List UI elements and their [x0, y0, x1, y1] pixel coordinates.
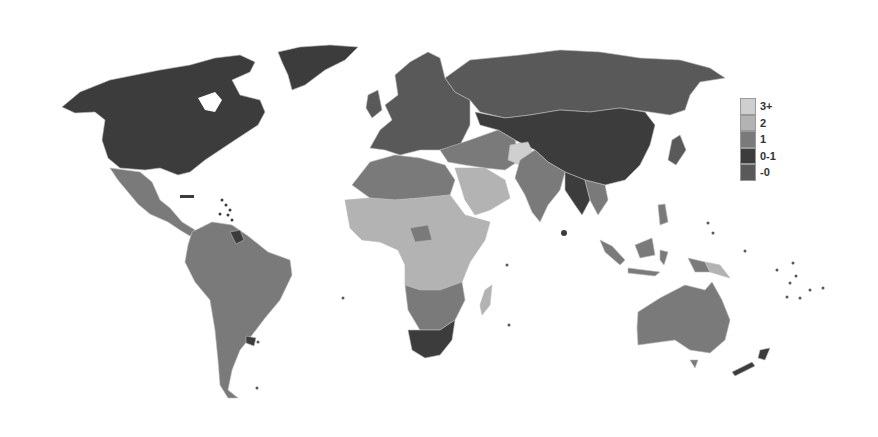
legend: 3+ 2 1 0-1 -0 — [740, 98, 800, 181]
region-new-zealand — [732, 348, 770, 376]
legend-swatch — [740, 98, 756, 115]
region-north-america — [62, 55, 265, 175]
legend-swatch — [740, 115, 756, 132]
legend-label: 1 — [760, 133, 766, 145]
legend-item: 3+ — [740, 98, 800, 115]
region-sri-lanka — [561, 230, 567, 236]
region-greenland — [278, 45, 358, 90]
region-europe — [370, 52, 470, 155]
legend-item: 1 — [740, 131, 800, 148]
region-japan — [668, 135, 686, 165]
region-uk — [366, 90, 382, 118]
region-philippines — [658, 204, 668, 225]
legend-item: 2 — [740, 115, 800, 132]
legend-item: -0 — [740, 164, 800, 181]
legend-label: 2 — [760, 117, 766, 129]
legend-label: 0-1 — [760, 150, 776, 162]
region-sub-saharan-africa — [345, 195, 490, 290]
legend-label: -0 — [760, 166, 770, 178]
world-map — [0, 0, 878, 437]
region-tasmania — [690, 360, 698, 368]
region-arabia — [455, 168, 510, 215]
region-papua-new-guinea — [705, 262, 730, 278]
legend-swatch — [740, 131, 756, 148]
region-north-africa — [352, 155, 455, 200]
region-australia — [637, 282, 730, 353]
region-russia — [445, 50, 725, 118]
region-south-america — [185, 222, 292, 398]
legend-swatch — [740, 148, 756, 165]
pacific-islands — [256, 222, 825, 390]
legend-label: 3+ — [760, 100, 773, 112]
region-mexico-central-america — [110, 168, 195, 236]
region-southeast-asia-islands — [600, 238, 668, 276]
legend-swatch — [740, 164, 756, 181]
region-madagascar — [480, 285, 492, 315]
caribbean-islands — [180, 195, 234, 222]
legend-item: 0-1 — [740, 148, 800, 165]
region-uruguay — [246, 336, 256, 346]
